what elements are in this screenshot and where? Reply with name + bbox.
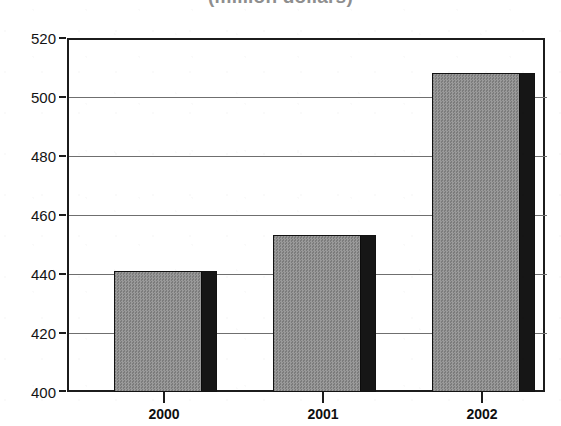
- bar-2001: [273, 235, 376, 392]
- y-axis-tick-label: 440: [10, 267, 56, 282]
- chart-title: (million dollars): [0, 0, 561, 8]
- x-axis-tick-mark: [481, 392, 483, 403]
- plot-area: [67, 38, 545, 392]
- bar-shadow: [360, 236, 375, 391]
- y-axis: 520 500 480 460 440 420 400: [0, 0, 56, 426]
- y-axis-tick-mark: [59, 390, 66, 392]
- x-axis-category-label: 2001: [307, 406, 338, 422]
- y-axis-tick-mark: [59, 37, 66, 39]
- bar-shadow: [519, 74, 534, 391]
- bar-2002: [432, 73, 535, 392]
- y-axis-tick-mark: [59, 273, 66, 275]
- y-axis-tick-label: 500: [10, 90, 56, 105]
- y-axis-tick-label: 520: [10, 31, 56, 46]
- y-axis-tick-mark: [59, 96, 66, 98]
- y-axis-tick-label: 400: [10, 385, 56, 400]
- bar-shadow: [201, 272, 216, 391]
- y-axis-tick-mark: [59, 332, 66, 334]
- y-axis-tick-label: 480: [10, 149, 56, 164]
- x-axis-tick-mark: [322, 392, 324, 403]
- y-axis-tick-mark: [59, 214, 66, 216]
- bar-2000: [114, 271, 217, 392]
- y-axis-tick-label: 460: [10, 208, 56, 223]
- y-axis-tick-label: 420: [10, 326, 56, 341]
- bar-chart-figure: (million dollars) 520 500 480 460 440 42…: [0, 0, 561, 426]
- y-axis-tick-mark: [59, 155, 66, 157]
- x-axis-tick-mark: [163, 392, 165, 403]
- x-axis-category-label: 2002: [466, 406, 497, 422]
- x-axis-category-label: 2000: [148, 406, 179, 422]
